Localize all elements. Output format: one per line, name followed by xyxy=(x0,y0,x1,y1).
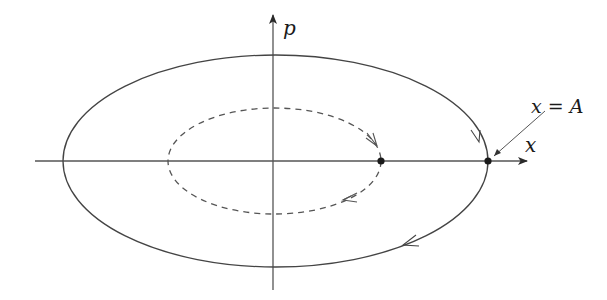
annotation-pointer-head-icon xyxy=(494,149,501,156)
outer-orbit-arrow-right-icon xyxy=(471,130,480,142)
annotation-pointer xyxy=(494,111,545,156)
p-axis-label: p xyxy=(283,16,296,40)
x-axis-label: x xyxy=(525,133,536,157)
inner-orbit-arrow-bottom-icon xyxy=(343,193,357,202)
inner-turning-point xyxy=(377,157,384,164)
outer-turning-point xyxy=(484,157,491,164)
phase-space-diagram: p x x = A xyxy=(0,0,607,300)
amplitude-label: x = A xyxy=(531,95,583,117)
